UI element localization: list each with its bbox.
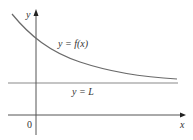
origin-label: 0 [27, 119, 32, 130]
x-axis-label: x [179, 119, 185, 130]
curve-label: y = f(x) [57, 38, 89, 50]
y-axis-arrow-icon [34, 9, 39, 16]
x-axis-arrow-icon [180, 113, 186, 118]
asymptote-label: y = L [71, 86, 94, 97]
y-axis-label: y [25, 9, 31, 20]
function-curve [12, 14, 177, 79]
function-graph: y x 0 y = f(x) y = L [0, 0, 193, 140]
